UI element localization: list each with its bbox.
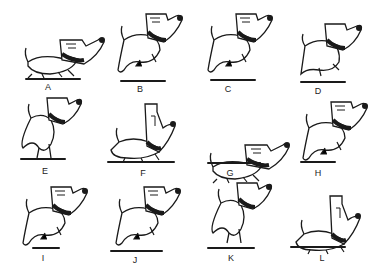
ground-line bbox=[300, 81, 346, 83]
frame-label: G bbox=[220, 168, 240, 178]
frame-label: I bbox=[33, 253, 53, 263]
frame-label: J bbox=[125, 255, 145, 265]
ground-line bbox=[290, 246, 346, 248]
frame-label: K bbox=[221, 253, 241, 263]
frame-label: H bbox=[308, 168, 328, 178]
dog-drawing-icon bbox=[295, 10, 383, 80]
dog-drawing-icon bbox=[20, 10, 110, 80]
dog-drawing-icon bbox=[108, 183, 198, 253]
frame-label: F bbox=[133, 168, 153, 178]
shadow-line bbox=[120, 80, 166, 82]
dog-drawing-icon bbox=[205, 183, 295, 253]
dog-drawing-icon bbox=[205, 115, 295, 185]
frame-label: A bbox=[38, 82, 58, 92]
dog-drawing-icon bbox=[15, 183, 105, 253]
shadow-line bbox=[300, 161, 336, 163]
ground-line bbox=[207, 247, 255, 249]
dog-drawing-icon bbox=[110, 10, 200, 80]
frame-label: C bbox=[218, 84, 238, 94]
frame-label: B bbox=[130, 84, 150, 94]
frame-label: D bbox=[308, 86, 328, 96]
dog-drawing-icon bbox=[200, 10, 290, 80]
frame-label: E bbox=[35, 166, 55, 176]
shadow-line bbox=[32, 247, 60, 249]
shadow-line bbox=[210, 79, 256, 81]
dog-drawing-icon bbox=[295, 98, 383, 168]
dog-drawing-icon bbox=[105, 98, 195, 168]
ground-line bbox=[25, 78, 81, 80]
ground-line bbox=[107, 161, 175, 163]
dog-drawing-icon bbox=[290, 190, 380, 260]
ground-line bbox=[207, 162, 261, 164]
ground-line bbox=[20, 158, 66, 160]
shadow-line bbox=[110, 250, 163, 252]
frame-label: L bbox=[312, 253, 332, 263]
